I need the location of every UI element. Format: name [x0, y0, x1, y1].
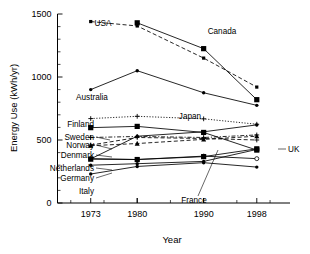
energy-use-line-chart: 050010001500 1973198019901998 Year Energ… [0, 0, 310, 254]
y-tick-label: 500 [36, 135, 51, 145]
marker-canada [254, 97, 259, 102]
leader-netherlands [96, 168, 112, 170]
y-tick-label: 0 [46, 198, 51, 208]
series-label-netherlands: Netherlands [50, 164, 94, 173]
marker-italy [202, 161, 205, 164]
x-axis-ticks [71, 198, 270, 203]
marker-germany [201, 154, 206, 159]
y-axis-title: Energy Use (kWh/yr) [8, 64, 19, 152]
x-tick-label: 1973 [81, 209, 101, 219]
series-label-germany: Germany [60, 174, 95, 183]
series-label-japan: Japan [179, 112, 202, 121]
marker-netherlands [255, 157, 259, 161]
series-label-usa: USA [95, 19, 112, 28]
x-tick-label: 1990 [194, 209, 214, 219]
x-tick-label: 1998 [247, 209, 267, 219]
series-label-italy: Italy [79, 187, 95, 196]
series-line-finland [91, 116, 257, 124]
marker-sweden [201, 130, 206, 135]
marker-australia [255, 104, 258, 107]
series-line-norway [91, 135, 257, 138]
y-tick-label: 1000 [31, 72, 51, 82]
leader-germany [96, 173, 112, 178]
series-line-germany [91, 149, 257, 160]
series-label-france: France [181, 196, 207, 205]
marker-canada [201, 46, 206, 51]
marker-japan [255, 123, 258, 126]
x-tick-label: 1980 [127, 209, 147, 219]
series-label-australia: Australia [76, 93, 108, 102]
marker-sweden [135, 124, 140, 129]
marker-france [255, 148, 258, 151]
leader-norway [96, 145, 112, 149]
marker-germany [135, 157, 140, 162]
marker-australia [202, 91, 205, 94]
marker-finland [201, 116, 206, 121]
marker-finland [135, 114, 140, 119]
series-label-denmark: Denmark [61, 151, 95, 160]
chart-svg: 050010001500 1973198019901998 Year Energ… [0, 0, 310, 254]
annotation-layer: USA Canada Australia Finland Japan Swede… [50, 19, 300, 205]
x-axis-tick-labels: 1973198019901998 [81, 209, 267, 219]
marker-usa [89, 20, 92, 23]
marker-canada [135, 20, 140, 25]
marker-italy [136, 165, 139, 168]
series-label-finland: Finland [67, 120, 94, 129]
x-axis-title: Year [162, 234, 181, 245]
series-line-uk [91, 137, 257, 145]
marker-australia [136, 69, 139, 72]
marker-usa [255, 85, 258, 88]
leader-denmark [96, 155, 112, 157]
marker-usa [202, 57, 205, 60]
y-axis-tick-labels: 050010001500 [31, 9, 51, 208]
series-layer [91, 22, 257, 174]
series-label-canada: Canada [208, 27, 237, 36]
marker-italy [255, 165, 258, 168]
marker-australia [89, 88, 92, 91]
series-label-norway: Norway [66, 141, 95, 150]
series-label-uk: UK [288, 145, 300, 154]
y-tick-label: 1500 [31, 9, 51, 19]
